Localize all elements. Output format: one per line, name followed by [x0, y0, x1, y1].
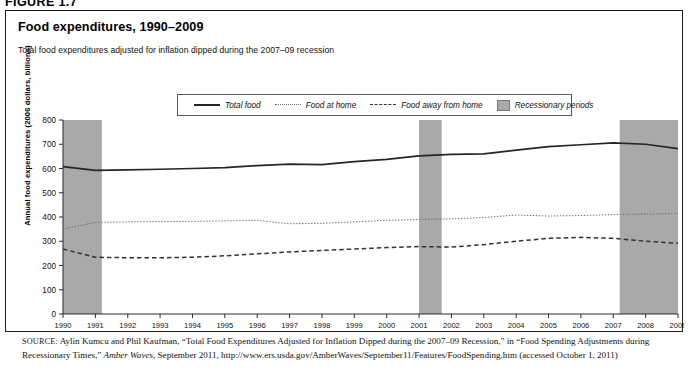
source-text-2: , September 2011, http://www.ers.usda.go…: [153, 350, 618, 360]
series-line: [63, 143, 678, 171]
y-axis-tick-label: 700: [42, 140, 56, 149]
y-axis-tick-label: 600: [42, 165, 56, 174]
figure-box: Food expenditures, 1990–2009 Total food …: [5, 10, 683, 332]
x-axis-tick-label: 1993: [152, 321, 169, 330]
x-axis-tick-label: 2005: [540, 321, 557, 330]
chart-plot-area: Annual food expenditures (2006 dollars, …: [6, 11, 684, 333]
y-axis-tick-label: 800: [42, 116, 56, 125]
recession-band: [63, 120, 102, 314]
x-axis-tick-label: 2007: [605, 321, 622, 330]
y-axis-tick-label: 400: [42, 213, 56, 222]
y-axis-tick-label: 200: [42, 262, 56, 271]
x-axis-tick-label: 1997: [281, 321, 298, 330]
x-axis-tick-label: 1990: [55, 321, 72, 330]
source-note: SOURCE: Aylin Kumcu and Phil Kaufman, “T…: [22, 335, 682, 361]
recession-band: [620, 120, 678, 314]
x-axis-tick-label: 2002: [443, 321, 460, 330]
y-axis-tick-label: 0: [51, 310, 56, 319]
x-axis-tick-label: 1995: [216, 321, 233, 330]
source-prefix: SOURCE:: [22, 337, 58, 346]
x-axis-tick-label: 2009: [670, 321, 684, 330]
x-axis-tick-label: 2000: [378, 321, 395, 330]
x-axis-tick-label: 1991: [87, 321, 104, 330]
series-line: [63, 214, 678, 230]
source-publication: Amber Waves: [104, 350, 153, 360]
figure-label: FIGURE 1.7: [5, 0, 77, 9]
x-axis-tick-label: 1996: [249, 321, 266, 330]
series-line: [63, 237, 678, 257]
x-axis-tick-label: 1998: [313, 321, 330, 330]
y-axis-tick-label: 300: [42, 237, 56, 246]
x-axis-tick-label: 1992: [119, 321, 136, 330]
y-axis-tick-label: 100: [42, 286, 56, 295]
x-axis-tick-label: 2006: [572, 321, 589, 330]
x-axis-tick-label: 2004: [508, 321, 525, 330]
x-axis-tick-label: 1999: [346, 321, 363, 330]
y-axis-tick-label: 500: [42, 189, 56, 198]
recession-band: [419, 120, 442, 314]
x-axis-tick-label: 2003: [475, 321, 492, 330]
x-axis-tick-label: 2008: [637, 321, 654, 330]
x-axis-tick-label: 1994: [184, 321, 201, 330]
figure-page: FIGURE 1.7 Food expenditures, 1990–2009 …: [0, 0, 691, 379]
chart-svg: 0100200300400500600700800199019911992199…: [6, 11, 684, 333]
x-axis-tick-label: 2001: [411, 321, 428, 330]
